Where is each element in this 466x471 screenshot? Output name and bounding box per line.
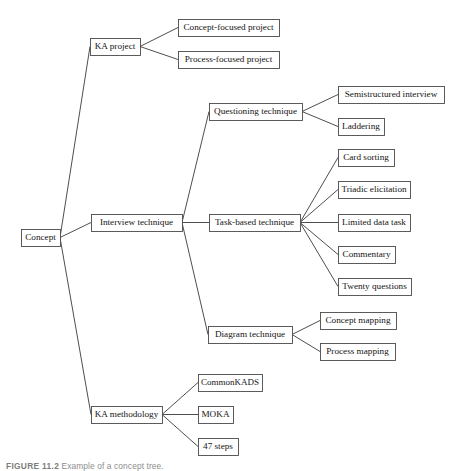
node-label-interview-technique: Interview technique <box>100 217 173 227</box>
figure-caption-label: FIGURE 11.2 <box>6 461 59 471</box>
tree-node-ka-project[interactable]: KA project <box>91 39 141 56</box>
tree-node-process-mapping[interactable]: Process mapping <box>321 344 396 361</box>
tree-node-laddering[interactable]: Laddering <box>339 119 385 136</box>
tree-node-commonkads[interactable]: CommonKADS <box>199 375 263 392</box>
node-label-task-based-technique: Task-based technique <box>215 217 294 227</box>
tree-node-47-steps[interactable]: 47 steps <box>199 439 239 456</box>
tree-edge-ka-methodology-to-47-steps <box>162 415 198 447</box>
tree-edge-concept-to-interview-technique <box>60 223 91 238</box>
node-label-semistructured-interview: Semistructured interview <box>345 89 438 99</box>
tree-node-concept-mapping[interactable]: Concept mapping <box>321 313 397 330</box>
tree-edge-interview-technique-to-questioning-technique <box>182 112 209 223</box>
tree-edge-diagram-technique-to-concept-mapping <box>292 321 320 335</box>
node-label-laddering: Laddering <box>342 121 380 131</box>
node-label-concept-mapping: Concept mapping <box>325 315 390 325</box>
tree-edge-questioning-technique-to-laddering <box>302 112 338 127</box>
concept-tree-diagram: ConceptKA projectInterview techniqueKA m… <box>0 0 466 471</box>
tree-edge-ka-project-to-process-focused-project <box>140 47 178 60</box>
tree-edge-task-based-technique-to-twenty-questions <box>300 223 338 287</box>
node-label-triadic-elicitation: Triadic elicitation <box>341 184 407 194</box>
tree-node-concept[interactable]: Concept <box>22 230 61 247</box>
figure-caption-text: Example of a concept tree. <box>62 461 164 471</box>
node-label-process-focused-project: Process-focused project <box>185 54 273 64</box>
node-label-diagram-technique: Diagram technique <box>215 329 285 339</box>
tree-edge-concept-to-ka-methodology <box>60 238 91 415</box>
node-label-moka: MOKA <box>201 409 229 419</box>
tree-node-process-focused-project[interactable]: Process-focused project <box>179 52 280 69</box>
tree-node-commentary[interactable]: Commentary <box>339 247 396 264</box>
tree-edge-ka-project-to-concept-focused-project <box>140 28 178 47</box>
tree-edge-questioning-technique-to-semistructured-interview <box>302 95 338 112</box>
node-label-twenty-questions: Twenty questions <box>342 281 407 291</box>
node-label-47-steps: 47 steps <box>203 441 233 451</box>
node-label-ka-project: KA project <box>95 41 136 51</box>
tree-node-task-based-technique[interactable]: Task-based technique <box>210 215 301 232</box>
tree-node-twenty-questions[interactable]: Twenty questions <box>339 279 412 296</box>
tree-node-interview-technique[interactable]: Interview technique <box>92 215 183 232</box>
tree-edge-concept-to-ka-project <box>60 47 90 238</box>
figure-container: ConceptKA projectInterview techniqueKA m… <box>0 0 466 471</box>
tree-edge-task-based-technique-to-card-sorting <box>300 158 338 223</box>
node-label-process-mapping: Process mapping <box>326 346 389 356</box>
node-layer: ConceptKA projectInterview techniqueKA m… <box>22 20 445 456</box>
tree-edge-ka-methodology-to-commonkads <box>162 383 198 415</box>
node-label-ka-methodology: KA methodology <box>95 409 159 419</box>
node-label-commentary: Commentary <box>343 249 391 259</box>
tree-node-diagram-technique[interactable]: Diagram technique <box>209 327 293 344</box>
node-label-questioning-technique: Questioning technique <box>214 106 297 116</box>
tree-node-triadic-elicitation[interactable]: Triadic elicitation <box>339 182 411 199</box>
node-label-limited-data-task: Limited data task <box>342 217 406 227</box>
node-label-concept-focused-project: Concept-focused project <box>183 22 274 32</box>
tree-node-limited-data-task[interactable]: Limited data task <box>339 215 411 232</box>
node-label-commonkads: CommonKADS <box>201 377 259 387</box>
node-label-concept: Concept <box>25 232 56 242</box>
tree-edge-task-based-technique-to-commentary <box>300 223 338 255</box>
tree-node-ka-methodology[interactable]: KA methodology <box>92 407 163 424</box>
tree-edge-diagram-technique-to-process-mapping <box>292 335 320 352</box>
node-label-card-sorting: Card sorting <box>343 152 389 162</box>
tree-node-card-sorting[interactable]: Card sorting <box>339 150 395 167</box>
tree-edge-task-based-technique-to-triadic-elicitation <box>300 190 338 223</box>
tree-node-questioning-technique[interactable]: Questioning technique <box>210 104 303 121</box>
tree-node-concept-focused-project[interactable]: Concept-focused project <box>179 20 280 37</box>
figure-caption: FIGURE 11.2 Example of a concept tree. <box>6 461 446 471</box>
tree-node-semistructured-interview[interactable]: Semistructured interview <box>339 87 445 104</box>
tree-edge-interview-technique-to-diagram-technique <box>182 223 208 335</box>
tree-node-moka[interactable]: MOKA <box>199 407 234 424</box>
